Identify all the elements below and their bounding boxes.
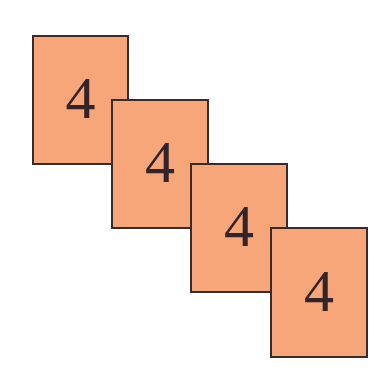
card-4: 4 [270, 227, 368, 358]
diagram-canvas: 4 4 4 4 [0, 0, 384, 377]
card-4-number: 4 [304, 261, 334, 321]
card-3-number: 4 [224, 196, 254, 256]
card-1-number: 4 [66, 68, 96, 128]
card-2-number: 4 [145, 132, 175, 192]
